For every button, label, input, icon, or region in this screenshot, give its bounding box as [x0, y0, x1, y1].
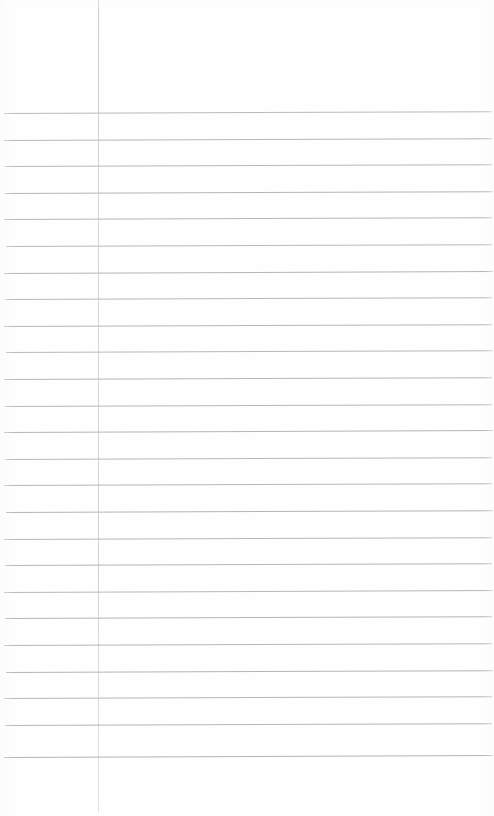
scanned-page [0, 0, 494, 816]
vertical-margin-line [98, 0, 99, 812]
paper-surface [0, 0, 494, 816]
